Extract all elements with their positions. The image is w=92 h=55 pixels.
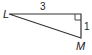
side-label-top: 3 [40, 1, 46, 12]
triangle-lmn [9, 14, 81, 38]
side-label-right: 1 [84, 21, 90, 32]
right-angle-marker [75, 14, 81, 20]
vertex-label-m: M [76, 40, 86, 52]
vertex-label-l: L [3, 8, 9, 20]
triangle-diagram: L 3 1 M [0, 0, 92, 55]
